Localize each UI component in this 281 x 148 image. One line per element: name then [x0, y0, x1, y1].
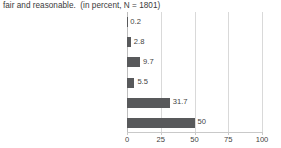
x-tick-label-75: 75 [213, 135, 243, 145]
x-tick-label-0: 0 [112, 135, 142, 145]
bar-value-label: 31.7 [173, 98, 188, 106]
bar-row: 5.5 Neutral [127, 73, 262, 93]
bar-chart: fair and reasonable. (in percent, N = 18… [0, 0, 281, 148]
bar-row: 9.7 Somewhat disagree [127, 52, 262, 72]
bar [127, 78, 134, 88]
bar-value-label: 9.7 [143, 58, 154, 66]
bar-row: 2.8 Strongly disagree [127, 32, 262, 52]
x-tick-label-100: 100 [247, 135, 277, 145]
gridline-100 [262, 12, 263, 133]
bar-row: 50 Strongly agree [127, 113, 262, 133]
bar-row: 31.7 Somewhat agree [127, 93, 262, 113]
chart-title: fair and reasonable. (in percent, N = 18… [3, 0, 278, 12]
x-tick-label-50: 50 [180, 135, 210, 145]
bar-value-label: 0.2 [130, 18, 141, 26]
bar [127, 118, 195, 128]
bar-value-label: 5.5 [137, 78, 148, 86]
bar [127, 57, 140, 67]
bar-value-label: 50 [198, 118, 206, 126]
plot-area: 0.2 My college/university does not have … [127, 12, 262, 133]
bar [127, 98, 170, 108]
bar-row: 0.2 My college/university does not have … [127, 12, 262, 32]
x-tick-label-25: 25 [146, 135, 176, 145]
bar-value-label: 2.8 [134, 38, 145, 46]
bar [127, 37, 131, 47]
